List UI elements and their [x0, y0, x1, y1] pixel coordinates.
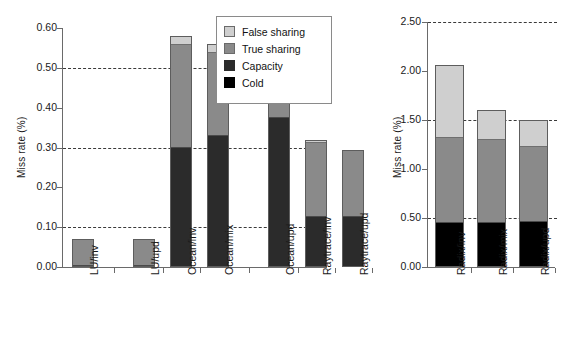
segment-false-sharing [520, 121, 547, 147]
x-tick-label: Ocean/mix [223, 225, 235, 275]
x-tick-label: Radix/mix [497, 229, 509, 275]
y-tick-label: 1.00 [386, 162, 421, 174]
right-chart-plot-area [428, 22, 555, 267]
y-tick-label: 0.20 [24, 180, 57, 192]
x-tick-mark [249, 268, 250, 273]
y-tick-label: 2.50 [386, 15, 421, 27]
segment-true-sharing [478, 140, 505, 223]
legend: False sharingTrue sharingCapacityCold [216, 16, 332, 104]
x-tick-mark [372, 268, 373, 273]
y-tick-label: 0.00 [386, 260, 421, 272]
y-tick-label: 0.50 [386, 211, 421, 223]
segment-true-sharing [306, 143, 326, 217]
legend-item-false-sharing: False sharing [224, 23, 322, 40]
x-tick-mark [471, 268, 472, 273]
segment-false-sharing [436, 66, 463, 138]
x-tick-mark [114, 268, 115, 273]
cold-swatch-icon [224, 77, 235, 88]
right-chart-x-axis [427, 267, 555, 268]
y-tick-label: 0.40 [24, 101, 57, 113]
y-tick-label: 0.50 [24, 61, 57, 73]
x-tick-label: LU/inv [88, 245, 100, 275]
segment-true-sharing [343, 151, 363, 218]
y-tick-label: 0.10 [24, 220, 57, 232]
x-tick-mark [513, 268, 514, 273]
y-tick-label: 0.30 [24, 141, 57, 153]
segment-false-sharing [478, 111, 505, 140]
x-tick-mark [335, 268, 336, 273]
x-tick-mark [298, 268, 299, 273]
segment-false-sharing [171, 37, 191, 45]
x-tick-label: Radix/upd [539, 228, 551, 275]
y-tick-label: 2.00 [386, 64, 421, 76]
y-tick-label: 0.60 [24, 21, 57, 33]
legend-item-label: False sharing [242, 26, 305, 38]
legend-item-capacity: Capacity [224, 57, 322, 74]
x-tick-label: Raytrace/upd [358, 213, 370, 275]
legend-item-true-sharing: True sharing [224, 40, 322, 57]
true-sharing-swatch-icon [224, 43, 235, 54]
x-tick-mark [200, 268, 201, 273]
y-tick-label: 1.50 [386, 113, 421, 125]
x-tick-label: Ocean/upd [284, 224, 296, 275]
legend-item-label: True sharing [242, 43, 301, 55]
x-tick-label: Raytrace/inv [321, 217, 333, 275]
legend-item-label: Capacity [242, 60, 283, 72]
legend-item-cold: Cold [224, 74, 322, 91]
segment-true-sharing [520, 147, 547, 222]
x-tick-label: Radix/inv [455, 232, 467, 275]
x-tick-label: Ocean/inv [186, 228, 198, 275]
figure-root: Miss rate (%) 0.000.100.200.300.400.500.… [0, 0, 562, 357]
false-sharing-swatch-icon [224, 26, 235, 37]
segment-true-sharing [171, 45, 191, 148]
x-tick-label: LU/upd [149, 241, 161, 275]
right-chart-panel: Miss rate (%) 0.000.501.001.502.002.50 R… [380, 0, 562, 357]
x-tick-mark [163, 268, 164, 273]
x-tick-mark [555, 268, 556, 273]
legend-item-label: Cold [242, 77, 264, 89]
y-tick-label: 0.00 [24, 260, 57, 272]
segment-true-sharing [436, 138, 463, 223]
capacity-swatch-icon [224, 60, 235, 71]
